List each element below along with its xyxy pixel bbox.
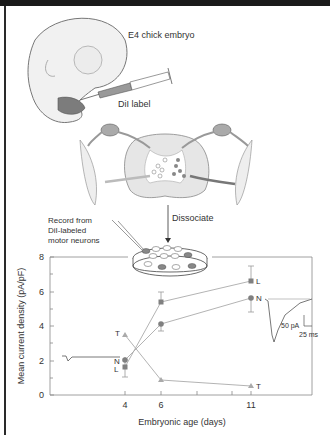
label-T-day4: T xyxy=(115,329,120,338)
dissociate-label: Dissociate xyxy=(172,213,214,223)
scale-current-label: 50 pA xyxy=(281,322,300,330)
series-L-line xyxy=(125,281,251,367)
x-axis-label: Embryonic age (days) xyxy=(138,417,226,427)
label-T-day11: T xyxy=(256,382,261,391)
label-L-day4: L xyxy=(114,365,119,374)
dye-label: DiI label xyxy=(118,99,151,109)
x-tick-11: 11 xyxy=(246,400,255,410)
series-lines xyxy=(125,281,251,386)
embryo-label: E4 chick embryo xyxy=(128,30,195,40)
chart-axes: 0 2 4 6 8 4 6 11 Embryonic age (days) Me… xyxy=(16,252,312,427)
trace-day4 xyxy=(62,356,120,361)
scale-bar: 50 pA 25 ms xyxy=(281,315,319,338)
spinal-cord-illustration xyxy=(80,124,252,205)
figure-canvas: E4 chick embryo DiI label Dissociate Rec… xyxy=(0,0,330,435)
series-N-markers xyxy=(122,295,254,363)
y-tick-8: 8 xyxy=(39,252,44,262)
y-axis-label: Mean current density (pA/pF) xyxy=(16,268,26,385)
series-T-line xyxy=(125,335,251,386)
series-N-line xyxy=(125,298,251,360)
label-N-day11: N xyxy=(256,294,262,303)
record-label-1: Record from xyxy=(48,216,92,225)
chick-embryo-illustration xyxy=(28,18,127,122)
series-T-markers xyxy=(122,332,254,388)
label-L-day11: L xyxy=(256,277,261,286)
scale-time-label: 25 ms xyxy=(299,331,319,338)
arrow-head-icon xyxy=(165,238,171,243)
x-tick-4: 4 xyxy=(122,400,127,410)
petri-dish-illustration xyxy=(133,246,207,277)
record-label-3: motor neurons xyxy=(48,236,100,245)
y-tick-6: 6 xyxy=(39,287,44,297)
y-tick-4: 4 xyxy=(39,321,44,331)
error-bars xyxy=(122,266,254,377)
record-label-2: DiI-labeled xyxy=(48,226,86,235)
y-tick-2: 2 xyxy=(39,356,44,366)
x-tick-6: 6 xyxy=(158,400,163,410)
y-tick-0: 0 xyxy=(39,390,44,400)
